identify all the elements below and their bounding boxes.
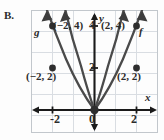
point-g-2-4 xyxy=(133,23,140,30)
point-f-2-2 xyxy=(133,65,140,72)
coordinate-graph xyxy=(31,10,158,133)
point-g-minus2-4 xyxy=(49,23,56,30)
figure-panel: B. xyxy=(0,0,164,140)
graph-svg xyxy=(31,10,158,133)
point-f-minus2-2 xyxy=(49,65,56,72)
item-label: B. xyxy=(4,9,14,21)
point-origin xyxy=(90,106,98,114)
